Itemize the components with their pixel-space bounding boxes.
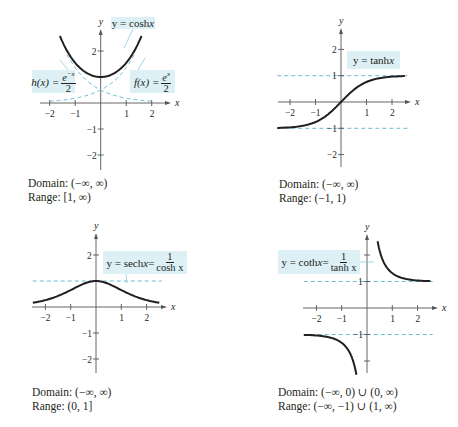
y-tick-label: −1 [327, 124, 337, 134]
caption-sech: Domain: (−∞, ∞) Range: (0, 1] [32, 385, 111, 413]
y-tick-label: −1 [353, 330, 363, 340]
x-axis-arrow-icon [432, 306, 438, 310]
caption-coth: Domain: (−∞, 0) ∪ (0, ∞) Range: (−∞, −1)… [278, 385, 398, 413]
x-tick-label: −2 [45, 109, 55, 119]
y-tick-label: 2 [332, 45, 337, 55]
y-axis-label: y [338, 15, 344, 26]
h-fraction: e−x 2 [61, 69, 76, 94]
y-tick-label: 1 [332, 71, 337, 81]
y-tick-label: 2 [92, 47, 97, 57]
coth-label-eq: = [322, 256, 328, 268]
y-axis-label: y [364, 221, 370, 232]
f-den: 2 [164, 84, 169, 94]
f-label-lhs: f(x) = [134, 76, 159, 88]
x-axis-label: x [441, 302, 447, 313]
f-label: f(x) = ex 2 [130, 70, 175, 93]
sech-label-text: y = sech [107, 257, 144, 269]
h-label: h(x) = e−x 2 [32, 70, 75, 93]
x-tick-label: 2 [145, 313, 150, 323]
y-axis-arrow-icon [339, 28, 343, 34]
sech-fraction: 1 cosh x [156, 252, 183, 273]
x-tick-label: 2 [150, 109, 155, 119]
tanh-label-var: x [389, 54, 394, 66]
caption-cosh: Domain: (−∞, ∞) Range: [1, ∞) [28, 176, 107, 204]
caption-tanh: Domain: (−∞, ∞) Range: (−1, 1) [279, 177, 358, 205]
y-axis-arrow-icon [365, 234, 369, 240]
coth-den: tanh x [331, 263, 357, 273]
leader-line [124, 29, 133, 48]
coth-label: y = coth x = 1 tanh x [278, 250, 360, 274]
cosh-label-var: x [149, 17, 154, 29]
f-fraction: ex 2 [161, 69, 171, 94]
domain-text: Domain: (−∞, ∞) [279, 177, 358, 191]
coth-num: 1 [340, 252, 347, 263]
x-tick-label: −1 [311, 108, 321, 118]
range-text: Range: [1, ∞) [28, 190, 107, 204]
coth-label-text: y = coth [281, 256, 317, 268]
h-label-lhs: h(x) = [31, 76, 59, 88]
y-axis-arrow-icon [99, 29, 103, 35]
x-tick-label: 2 [390, 108, 395, 118]
x-tick-label: −1 [66, 313, 76, 323]
function-curve [378, 241, 431, 281]
y-axis-arrow-icon [94, 233, 98, 239]
x-tick-label: −2 [40, 313, 50, 323]
x-axis-label: x [414, 96, 420, 107]
x-tick-label: −2 [311, 314, 321, 324]
y-tick-label: −2 [82, 355, 92, 365]
x-axis-arrow-icon [161, 305, 167, 309]
domain-text: Domain: (−∞, ∞) [28, 176, 107, 190]
sech-label-eq: = [148, 257, 154, 269]
coth-fraction: 1 tanh x [331, 252, 357, 273]
y-axis-label: y [93, 220, 99, 231]
range-text: Range: (−∞, −1) ∪ (1, ∞) [278, 399, 398, 413]
leader-line [138, 58, 145, 70]
function-curve [304, 335, 357, 375]
x-axis-arrow-icon [165, 101, 171, 105]
tanh-label-text: y = tanh [353, 54, 389, 66]
y-tick-label: 1 [358, 277, 363, 287]
sech-den: cosh x [156, 263, 183, 273]
y-tick-label: −1 [87, 125, 97, 135]
range-text: Range: (0, 1] [32, 399, 111, 413]
x-axis-arrow-icon [405, 100, 411, 104]
x-tick-label: −1 [337, 314, 347, 324]
y-axis-label: y [98, 16, 104, 27]
x-tick-label: 1 [390, 314, 395, 324]
y-tick-label: −2 [327, 150, 337, 160]
x-tick-label: 2 [416, 314, 421, 324]
h-den: 2 [66, 84, 71, 94]
x-axis-label: x [174, 97, 180, 108]
y-tick-label: 2 [87, 251, 92, 261]
range-text: Range: (−1, 1) [279, 191, 358, 205]
h-num-sup: −x [67, 70, 75, 78]
x-tick-label: −2 [285, 108, 295, 118]
domain-text: Domain: (−∞, ∞) [32, 385, 111, 399]
tanh-label: y = tanh x [347, 51, 400, 69]
y-tick-label: −2 [87, 151, 97, 161]
cosh-label-text: y = cosh [112, 17, 149, 29]
y-tick-label: −1 [82, 329, 92, 339]
x-tick-label: −1 [70, 109, 80, 119]
leader-line [126, 274, 127, 283]
x-tick-label: 1 [124, 109, 129, 119]
x-tick-label: 1 [119, 313, 124, 323]
cosh-label: y = cosh x [111, 17, 155, 29]
sech-label: y = sech x = 1 cosh x [103, 251, 187, 274]
domain-text: Domain: (−∞, 0) ∪ (0, ∞) [278, 385, 398, 399]
x-tick-label: 1 [365, 108, 370, 118]
f-num-sup: x [167, 70, 170, 78]
x-axis-label: x [170, 301, 176, 312]
